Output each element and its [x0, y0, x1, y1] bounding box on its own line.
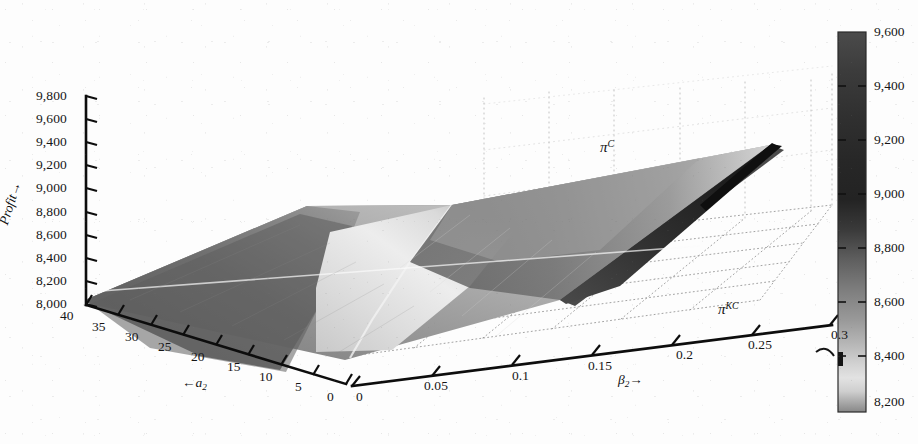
colorbar-tick-label: 9,200	[874, 132, 904, 148]
x-axis-label: ←a2	[182, 375, 207, 392]
colorbar	[816, 32, 866, 412]
colorbar-tick-label: 9,000	[874, 186, 904, 202]
x-axis-label-subscript: 2	[202, 382, 207, 392]
colorbar-tick-label: 8,400	[874, 348, 904, 364]
z-tick-label: 8,600	[36, 227, 67, 243]
x-tick-label: 0	[327, 389, 334, 405]
x-tick-label: 10	[259, 369, 273, 385]
x-tick-label: 5	[295, 379, 302, 395]
x-tick-label: 35	[92, 319, 106, 335]
z-tick-label: 8,400	[36, 250, 67, 266]
z-axis-ticks	[86, 96, 97, 307]
annotation-pi-c-base: π	[600, 139, 608, 155]
y-tick-label: 0.05	[424, 378, 448, 394]
colorbar-tick-label: 9,600	[874, 24, 904, 40]
x-tick-label: 40	[60, 308, 74, 324]
colorbar-tick-label: 8,800	[874, 240, 904, 256]
z-tick-label: 9,800	[36, 88, 67, 104]
x-tick-label: 30	[125, 329, 139, 345]
colorbar-tick-label: 9,400	[874, 78, 904, 94]
y-tick-label: 0.3	[831, 327, 848, 343]
colorbar-tick-label: 8,200	[874, 394, 904, 410]
annotation-pi-kc-base: π	[718, 301, 726, 317]
z-tick-label: 9,200	[36, 157, 67, 173]
plot-canvas	[0, 0, 918, 444]
x-tick-label: 25	[158, 339, 172, 355]
x-tick-label: 20	[191, 349, 205, 365]
z-tick-label: 9,600	[36, 111, 67, 127]
z-tick-label: 9,400	[36, 134, 67, 150]
x-tick-label: 15	[227, 359, 241, 375]
annotation-pi-c: πC	[600, 138, 614, 156]
colorbar-tick-label: 8,600	[874, 294, 904, 310]
y-axis-label: β2→	[618, 372, 643, 389]
y-axis-label-arrow: →	[629, 372, 643, 387]
z-tick-label: 8,800	[36, 204, 67, 220]
y-tick-label: 0	[356, 389, 363, 405]
y-tick-label: 0.1	[512, 368, 529, 384]
z-tick-label: 8,200	[36, 273, 67, 289]
y-tick-label: 0.15	[588, 358, 612, 374]
y-tick-label: 0.25	[748, 337, 772, 353]
y-axis-label-text: β	[618, 372, 625, 387]
annotation-pi-kc-superscript: KC	[726, 300, 739, 311]
colorbar-marker	[838, 352, 843, 366]
annotation-pi-kc: πKC	[718, 300, 739, 318]
x-axis-label-arrow: ←	[182, 375, 196, 390]
annotation-pi-c-superscript: C	[608, 138, 615, 149]
colorbar-pointer-icon	[816, 349, 834, 356]
y-tick-label: 0.2	[676, 347, 693, 363]
z-tick-label: 9,000	[36, 180, 67, 196]
surface-plot-figure: 9,800 9,600 9,400 9,200 9,000 8,800 8,60…	[0, 0, 918, 444]
